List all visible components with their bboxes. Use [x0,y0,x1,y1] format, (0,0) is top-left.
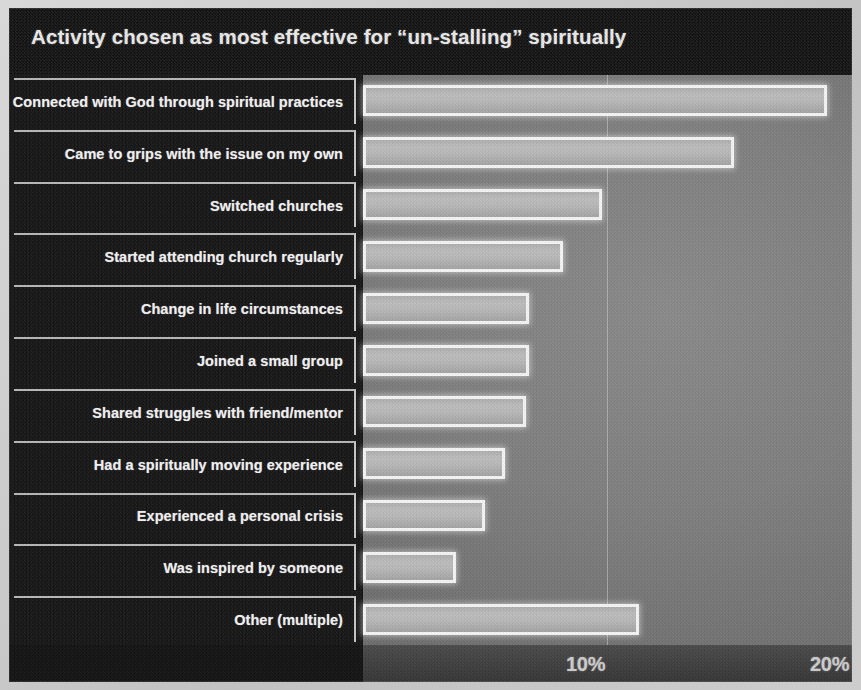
category-label: Started attending church regularly [104,249,343,265]
x-axis-band: 10%20% [363,645,852,682]
category-row-8: Had a spiritually moving experience [14,441,356,487]
category-label: Shared struggles with friend/mentor [92,405,343,421]
category-label: Joined a small group [197,353,343,369]
x-tick-label-10pct: 10% [566,653,605,676]
category-label: Was inspired by someone [164,560,344,576]
category-row-6: Joined a small group [14,337,356,383]
category-row-11: Other (multiple) [14,596,356,642]
category-row-3: Switched churches [14,182,356,228]
figure-frame: Activity chosen as most effective for “u… [0,0,861,690]
bar-7 [363,396,526,427]
category-label: Connected with God through spiritual pra… [13,94,343,110]
category-row-4: Started attending church regularly [14,233,356,279]
bar-8 [363,448,505,479]
category-label: Experienced a personal crisis [137,508,343,524]
category-label: Other (multiple) [234,612,343,628]
category-label: Switched churches [210,198,343,214]
category-row-2: Came to grips with the issue on my own [14,130,356,176]
category-row-5: Change in life circumstances [14,285,356,331]
category-row-10: Was inspired by someone [14,544,356,590]
bar-6 [363,345,529,376]
plot-area [363,75,852,645]
title-band: Activity chosen as most effective for “u… [9,8,852,75]
bar-4 [363,241,563,272]
category-label: Came to grips with the issue on my own [65,146,343,162]
chart-title: Activity chosen as most effective for “u… [31,25,626,49]
bar-1 [363,85,827,116]
x-tick-label-20pct: 20% [810,653,849,676]
category-label: Had a spiritually moving experience [94,457,343,473]
bar-10 [363,552,456,583]
category-row-7: Shared struggles with friend/mentor [14,389,356,435]
bar-9 [363,500,485,531]
bar-11 [363,604,639,635]
category-label: Change in life circumstances [141,301,343,317]
axis-band-left [9,645,363,682]
bar-3 [363,189,602,220]
chart-plate: Activity chosen as most effective for “u… [9,8,852,682]
bar-5 [363,293,529,324]
category-row-9: Experienced a personal crisis [14,493,356,539]
category-row-1: Connected with God through spiritual pra… [14,78,356,124]
bar-2 [363,137,734,168]
